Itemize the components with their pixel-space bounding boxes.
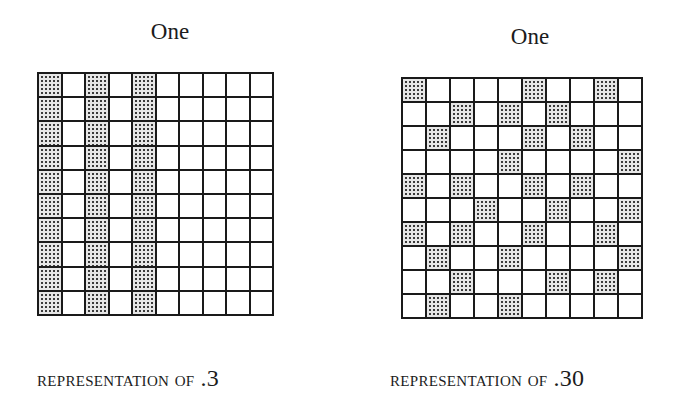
grid-cell (157, 98, 179, 120)
grid-cell-shaded (451, 271, 473, 293)
grid-cell (227, 195, 249, 217)
grid-cell-shaded (427, 247, 449, 269)
figure-title: One (485, 25, 575, 48)
grid-cell (227, 268, 249, 290)
grid-cell (451, 295, 473, 317)
grid-cell (451, 127, 473, 149)
grid-cell (63, 147, 85, 169)
grid-cell-shaded (403, 79, 425, 101)
grid-cell-shaded (39, 122, 61, 144)
grid-cell (427, 151, 449, 173)
grid-cell-shaded (39, 219, 61, 241)
grid-cell (475, 79, 497, 101)
grid-cell-shaded (571, 127, 593, 149)
grid-cell (571, 79, 593, 101)
grid-cell (180, 74, 202, 96)
grid-cell (157, 243, 179, 265)
grid-cell (403, 271, 425, 293)
grid-cell-shaded (595, 223, 617, 245)
grid-cell (547, 79, 569, 101)
grid-cell (63, 219, 85, 241)
grid-cell (110, 98, 132, 120)
grid-cell-shaded (595, 271, 617, 293)
grid-cell-shaded (133, 268, 155, 290)
grid-cell-shaded (451, 175, 473, 197)
grid-cell (427, 79, 449, 101)
grid-cell (204, 147, 226, 169)
grid-cell (427, 175, 449, 197)
grid-cell (110, 195, 132, 217)
grid-cell-shaded (133, 171, 155, 193)
grid-cell (403, 127, 425, 149)
grid-cell (110, 74, 132, 96)
grid-cell-shaded (39, 74, 61, 96)
grid-cell (227, 171, 249, 193)
grid-cell (595, 103, 617, 125)
grid-cell (619, 103, 641, 125)
grid-cell (180, 243, 202, 265)
grid-cell-shaded (133, 243, 155, 265)
grid-cell (571, 199, 593, 221)
grid-cell (475, 295, 497, 317)
grid-cell (547, 151, 569, 173)
grid-cell (204, 98, 226, 120)
grid-cell (547, 295, 569, 317)
grid-cell (547, 247, 569, 269)
grid-cell (180, 195, 202, 217)
grid-cell-shaded (499, 295, 521, 317)
grid-cell (619, 223, 641, 245)
grid-cell (227, 243, 249, 265)
grid-cell (595, 295, 617, 317)
grid-cell (251, 268, 273, 290)
grid-cell (227, 219, 249, 241)
grid-cell-shaded (619, 247, 641, 269)
caption-value: .30 (554, 365, 585, 391)
grid-cell (571, 151, 593, 173)
grid-cell (595, 127, 617, 149)
grid-cell (499, 199, 521, 221)
grid-cell (499, 127, 521, 149)
grid-cell (451, 247, 473, 269)
grid-cell-shaded (86, 292, 108, 314)
grid-cell (180, 98, 202, 120)
grid-cell-shaded (86, 147, 108, 169)
grid-cell (157, 195, 179, 217)
grid-cell (475, 103, 497, 125)
grid-cell (180, 122, 202, 144)
grid-cell (180, 219, 202, 241)
grid-cell-shaded (39, 98, 61, 120)
grid-cell-shaded (86, 268, 108, 290)
grid-cell-shaded (523, 79, 545, 101)
grid-cell-shaded (133, 195, 155, 217)
grid-cell (204, 195, 226, 217)
grid-cell (157, 292, 179, 314)
hundred-grid-point-thirty (401, 77, 643, 319)
grid-cell (251, 219, 273, 241)
grid-cell (251, 243, 273, 265)
grid-cell-shaded (451, 103, 473, 125)
grid-cell-shaded (547, 271, 569, 293)
grid-cell (157, 122, 179, 144)
grid-cell-shaded (619, 151, 641, 173)
grid-cell-shaded (427, 127, 449, 149)
grid-cell-shaded (86, 219, 108, 241)
grid-cell (251, 147, 273, 169)
grid-cell (523, 295, 545, 317)
grid-cell (499, 175, 521, 197)
grid-cell (251, 195, 273, 217)
grid-cell-shaded (475, 199, 497, 221)
grid-cell-shaded (403, 223, 425, 245)
grid-cell (110, 292, 132, 314)
grid-cell (251, 171, 273, 193)
grid-cell (523, 199, 545, 221)
grid-cell (451, 151, 473, 173)
grid-cell (63, 268, 85, 290)
grid-cell-shaded (86, 243, 108, 265)
grid-cell (475, 247, 497, 269)
grid-cell (595, 247, 617, 269)
grid-cell-shaded (39, 147, 61, 169)
grid-cell (110, 122, 132, 144)
grid-cell (227, 292, 249, 314)
grid-cell (157, 147, 179, 169)
grid-cell (204, 243, 226, 265)
